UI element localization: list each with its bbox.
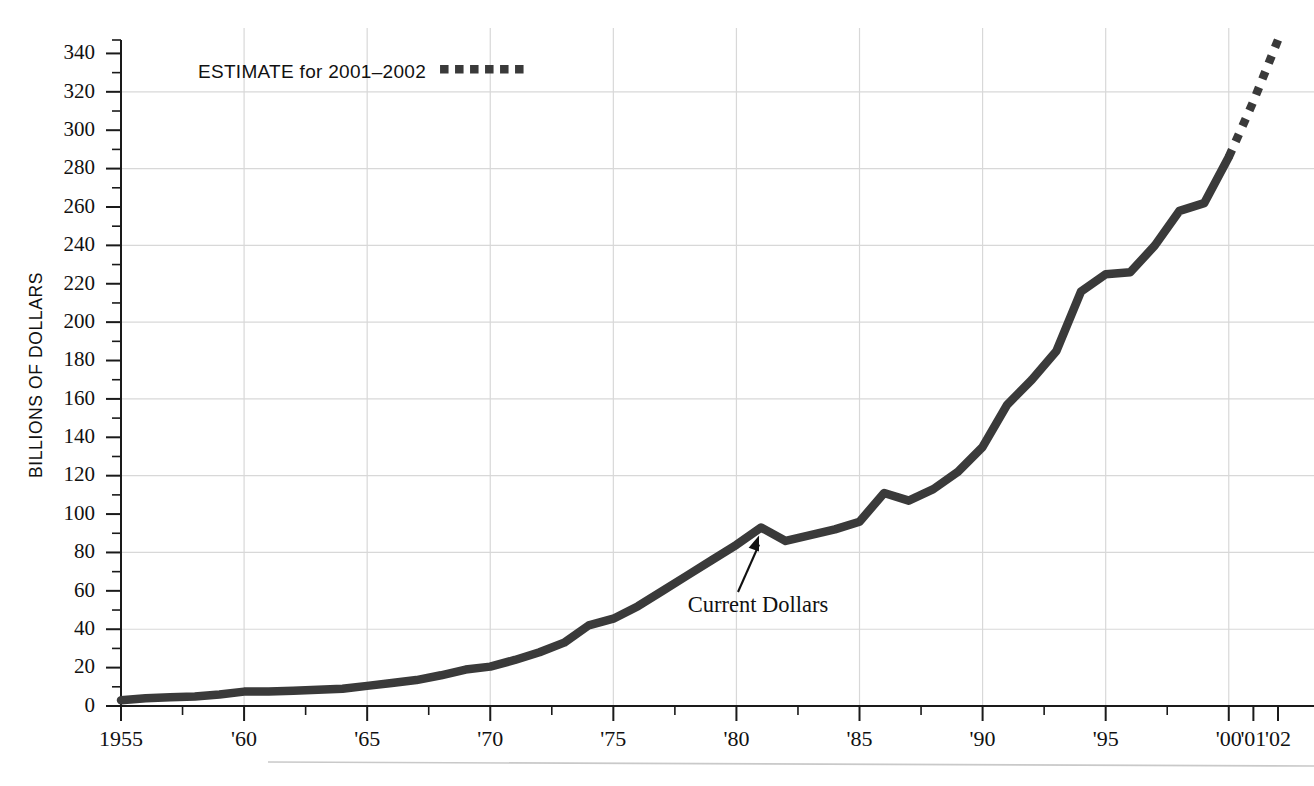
x-tick-label: '01 <box>1240 726 1266 751</box>
y-tick-label: 240 <box>64 232 96 256</box>
series-line-estimate <box>1229 40 1278 157</box>
line-chart-svg: 0204060801001201401601802002202402602803… <box>0 0 1314 786</box>
legend-item-estimate-swatch <box>440 65 524 74</box>
y-tick-label: 40 <box>74 616 95 640</box>
x-tick-label: '80 <box>723 726 749 751</box>
y-tick-label: 300 <box>64 117 96 141</box>
y-tick-label: 320 <box>64 79 96 103</box>
legend-dash-square <box>515 65 524 74</box>
legend-dash-square <box>455 65 464 74</box>
legend-dash-square <box>485 65 494 74</box>
annotation-label: Current Dollars <box>688 592 829 617</box>
y-tick-label: 120 <box>64 462 96 486</box>
x-tick-label: '60 <box>231 726 257 751</box>
x-tick-label: '75 <box>600 726 626 751</box>
y-tick-label: 340 <box>64 40 96 64</box>
legend-dash-square <box>500 65 509 74</box>
y-tick-label: 60 <box>74 578 95 602</box>
chart-figure: 0204060801001201401601802002202402602803… <box>0 0 1314 786</box>
legend-dash-square <box>470 65 479 74</box>
y-tick-label: 160 <box>64 386 96 410</box>
x-tick-label: '00 <box>1216 726 1242 751</box>
y-tick-labels-group: 0204060801001201401601802002202402602803… <box>64 40 96 717</box>
y-tick-label: 220 <box>64 271 96 295</box>
x-tick-label: '65 <box>354 726 380 751</box>
chart-legend: ESTIMATE for 2001–2002 <box>198 61 524 82</box>
x-tick-label: 1955 <box>99 726 143 751</box>
footer-divider <box>268 762 1314 766</box>
x-tick-label: '90 <box>970 726 996 751</box>
x-tick-label: '95 <box>1093 726 1119 751</box>
y-tick-label: 260 <box>64 194 96 218</box>
x-tick-labels-group: 1955'60'65'70'75'80'85'90'95'00'01'02 <box>99 726 1291 751</box>
y-tick-label: 180 <box>64 347 96 371</box>
y-tick-label: 0 <box>85 693 96 717</box>
x-tick-label: '02 <box>1265 726 1291 751</box>
legend-dash-square <box>440 65 449 74</box>
y-tick-label: 280 <box>64 155 96 179</box>
x-tick-label: '85 <box>847 726 873 751</box>
y-axis-title: BILLIONS OF DOLLARS <box>26 272 46 478</box>
tick-marks-group <box>106 40 1278 721</box>
annotation-current-dollars: Current Dollars <box>688 536 829 617</box>
series-line-current-dollars <box>121 157 1229 700</box>
y-tick-label: 140 <box>64 424 96 448</box>
y-tick-label: 80 <box>74 539 95 563</box>
annotation-arrow-shaft <box>738 545 759 592</box>
y-tick-label: 20 <box>74 654 95 678</box>
legend-item-estimate-label: ESTIMATE for 2001–2002 <box>198 61 426 82</box>
y-tick-label: 200 <box>64 309 96 333</box>
x-tick-label: '70 <box>477 726 503 751</box>
y-tick-label: 100 <box>64 501 96 525</box>
